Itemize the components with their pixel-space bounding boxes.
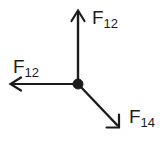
force-left-label: F12 bbox=[13, 57, 39, 76]
origin-node bbox=[73, 79, 83, 89]
force-diagonal-label: F14 bbox=[129, 107, 155, 126]
force-diagonal-label-subscript: 14 bbox=[141, 115, 155, 130]
force-left-label-base: F bbox=[13, 56, 25, 77]
force-up-label: F12 bbox=[92, 8, 118, 27]
force-diagonal-label-base: F bbox=[129, 106, 141, 127]
force-diagonal-shaft bbox=[79, 85, 118, 126]
force-left-label-subscript: 12 bbox=[25, 65, 39, 80]
force-up-label-base: F bbox=[92, 7, 104, 28]
force-vector-diagram: F12 F12 F14 bbox=[0, 0, 165, 143]
force-up-label-subscript: 12 bbox=[104, 16, 118, 31]
